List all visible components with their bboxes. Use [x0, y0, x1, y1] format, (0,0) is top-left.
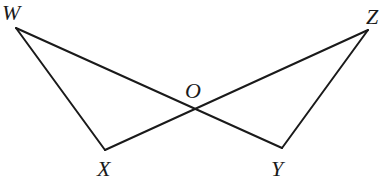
segment-wx [16, 28, 105, 150]
label-w: W [2, 0, 22, 25]
label-y: Y [271, 156, 286, 181]
label-x: X [96, 156, 112, 181]
label-z: Z [366, 4, 379, 29]
segment-zy [282, 30, 368, 148]
label-o: O [185, 78, 201, 103]
geometry-diagram: W Z O X Y [0, 0, 389, 182]
segment-xz [105, 30, 368, 150]
